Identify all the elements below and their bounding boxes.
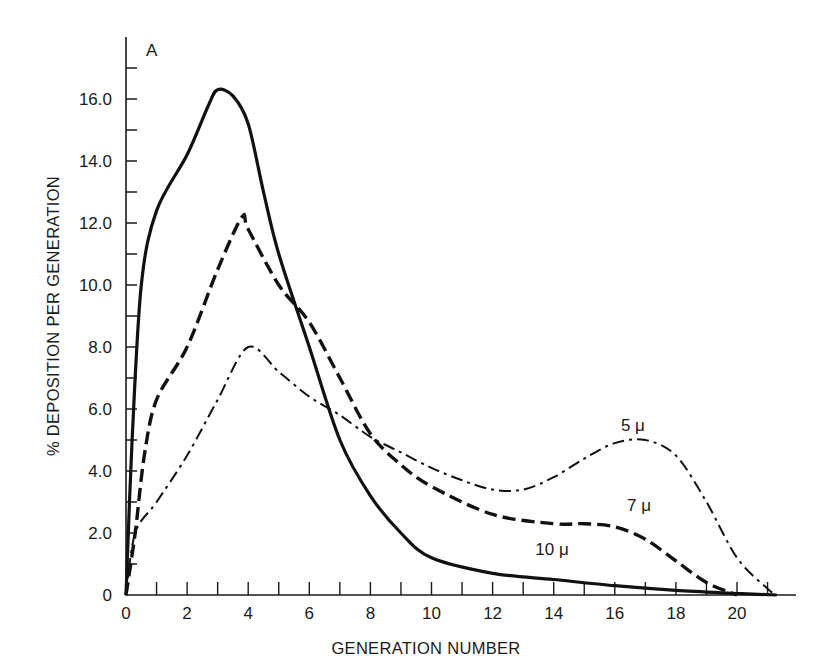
- x-tick-label: 10: [422, 604, 441, 623]
- y-tick-label: 0: [103, 586, 112, 605]
- x-axis-ticks: [157, 582, 768, 595]
- x-tick-label: 2: [182, 604, 191, 623]
- series-labels: 10 μ7 μ5 μ: [535, 416, 651, 559]
- x-tick-label: 14: [544, 604, 563, 623]
- y-tick-label: 12.0: [79, 214, 112, 233]
- x-axis-title: GENERATION NUMBER: [331, 639, 520, 657]
- series-label-10u: 10 μ: [535, 540, 568, 559]
- panel-label: A: [146, 41, 158, 60]
- x-tick-label: 18: [666, 604, 685, 623]
- series-line-10u: [126, 89, 777, 595]
- y-tick-label: 4.0: [88, 462, 112, 481]
- y-axis-title: % DEPOSITION PER GENERATION: [44, 176, 62, 456]
- axes: 02.04.06.08.010.012.014.016.0 0246810121…: [79, 37, 796, 623]
- x-tick-label: 8: [366, 604, 375, 623]
- series-label-5u: 5 μ: [621, 416, 645, 435]
- x-tick-label: 4: [243, 604, 252, 623]
- x-tick-label: 20: [728, 604, 747, 623]
- y-tick-label: 14.0: [79, 152, 112, 171]
- x-tick-label: 12: [483, 604, 502, 623]
- series-line-5u: [126, 346, 777, 595]
- x-tick-label: 16: [605, 604, 624, 623]
- x-tick-label: 0: [121, 604, 130, 623]
- y-tick-label: 2.0: [88, 524, 112, 543]
- series-label-7u: 7 μ: [627, 496, 651, 515]
- series-line-7u: [126, 215, 737, 595]
- y-tick-label: 8.0: [88, 338, 112, 357]
- y-tick-label: 10.0: [79, 276, 112, 295]
- x-axis-tick-labels: 02468101214161820: [121, 604, 746, 623]
- deposition-chart: 02.04.06.08.010.012.014.016.0 0246810121…: [0, 0, 835, 672]
- y-axis-tick-labels: 02.04.06.08.010.012.014.016.0: [79, 90, 112, 605]
- x-tick-label: 6: [305, 604, 314, 623]
- series-layer: [126, 89, 777, 595]
- y-tick-label: 16.0: [79, 90, 112, 109]
- y-tick-label: 6.0: [88, 400, 112, 419]
